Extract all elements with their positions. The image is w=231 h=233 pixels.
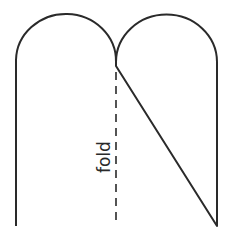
pattern-diagram: fold: [0, 0, 231, 233]
fold-label: fold: [94, 141, 114, 173]
